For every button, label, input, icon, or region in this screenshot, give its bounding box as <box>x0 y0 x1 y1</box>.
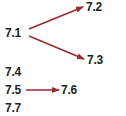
node-7-7: 7.7 <box>5 102 21 114</box>
node-7-1: 7.1 <box>5 27 21 39</box>
node-7-6: 7.6 <box>61 84 77 96</box>
node-7-5: 7.5 <box>5 84 21 96</box>
arrow-7-1-to-7-2 <box>29 7 83 29</box>
node-7-4: 7.4 <box>5 66 21 78</box>
node-7-2: 7.2 <box>86 1 102 13</box>
arrow-7-1-to-7-3 <box>29 36 84 59</box>
node-7-3: 7.3 <box>87 54 103 66</box>
arrows-layer <box>0 0 126 116</box>
